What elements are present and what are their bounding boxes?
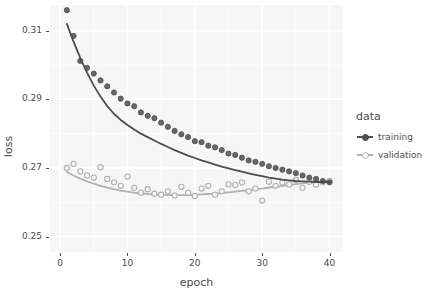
x-tick-label: 10 [112,258,142,268]
data-point-training [159,120,164,125]
y-tick-label: 0.31 [12,25,42,35]
legend-title: data [356,110,430,123]
data-point-training [78,58,83,63]
data-point-validation [273,183,278,188]
data-point-validation [152,191,157,196]
data-point-training [226,151,231,156]
data-point-validation [98,165,103,170]
x-tick-label: 20 [180,258,210,268]
data-point-training [219,148,224,153]
data-point-validation [206,183,211,188]
data-point-validation [219,189,224,194]
y-tick-mark [46,99,49,100]
data-point-validation [105,176,110,181]
plot-svg [50,5,343,252]
data-point-validation [266,179,271,184]
data-point-validation [125,174,130,179]
data-point-validation [91,175,96,180]
y-tick-mark [46,31,49,32]
data-point-validation [233,183,238,188]
data-point-training [300,173,305,178]
data-point-validation [84,173,89,178]
y-tick-label: 0.29 [12,93,42,103]
data-point-training [293,171,298,176]
data-point-training [84,65,89,70]
data-point-training [132,104,137,109]
legend-label-validation: validation [378,150,422,160]
legend-label-training: training [378,132,413,142]
data-point-validation [185,190,190,195]
data-point-training [199,140,204,145]
data-point-training [313,176,318,181]
data-point-validation [300,185,305,190]
data-point-training [260,161,265,166]
data-point-training [118,96,123,101]
data-point-training [206,143,211,148]
data-point-training [246,158,251,163]
x-tick-mark [127,253,128,256]
data-point-validation [192,193,197,198]
data-point-training [185,134,190,139]
data-point-validation [287,182,292,187]
data-point-training [152,116,157,121]
data-point-training [165,124,170,129]
data-point-training [98,78,103,83]
data-point-training [145,113,150,118]
y-axis-title: loss [2,0,16,292]
data-point-validation [78,169,83,174]
x-tick-label: 0 [45,258,75,268]
data-point-training [91,71,96,76]
data-point-training [105,84,110,89]
y-axis-title-text: loss [3,135,16,156]
data-point-validation [246,189,251,194]
data-point-training [111,90,116,95]
data-point-training [172,128,177,133]
legend-item-training[interactable]: training [356,129,430,145]
data-point-training [138,110,143,115]
chart-root: loss epoch 0.250.270.290.31 010203040 da… [0,0,432,292]
data-point-training [212,145,217,150]
x-tick-mark [262,253,263,256]
legend-item-validation[interactable]: validation [356,147,430,163]
data-point-validation [260,198,265,203]
data-point-training [239,155,244,160]
data-point-training [266,164,271,169]
data-point-validation [239,180,244,185]
data-point-validation [212,192,217,197]
training-trend-line [67,24,330,182]
data-point-training [253,159,258,164]
data-point-training [273,165,278,170]
data-point-validation [132,185,137,190]
x-tick-mark [330,253,331,256]
data-point-validation [138,190,143,195]
y-tick-label: 0.25 [12,231,42,241]
data-point-training [71,33,76,38]
data-point-training [280,167,285,172]
data-point-training [327,180,332,185]
data-point-training [307,175,312,180]
data-point-validation [165,189,170,194]
data-point-validation [111,180,116,185]
data-point-validation [118,183,123,188]
x-tick-mark [195,253,196,256]
legend-key-training-icon [356,130,374,144]
data-point-validation [64,165,69,170]
data-point-validation [199,186,204,191]
y-tick-mark [46,237,49,238]
data-point-validation [179,184,184,189]
x-tick-label: 40 [315,258,345,268]
x-tick-label: 30 [247,258,277,268]
data-point-training [179,132,184,137]
y-tick-label: 0.27 [12,162,42,172]
x-axis-title: epoch [50,276,343,289]
data-point-training [192,139,197,144]
plot-panel [50,5,343,252]
data-point-validation [172,193,177,198]
legend-key-validation-icon [356,148,374,162]
data-point-training [320,178,325,183]
x-tick-mark [60,253,61,256]
data-point-training [287,169,292,174]
data-point-training [125,101,130,106]
data-point-validation [145,187,150,192]
data-point-validation [71,161,76,166]
